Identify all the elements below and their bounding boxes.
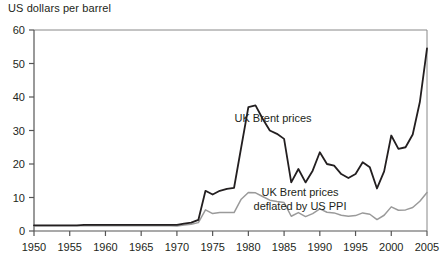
oil-price-chart: US dollars per barrel 0102030405060 1950… xyxy=(0,0,444,269)
svg-text:1980: 1980 xyxy=(236,241,260,253)
chart-plot-area: 0102030405060 19501955196019651970197519… xyxy=(0,0,444,269)
svg-text:60: 60 xyxy=(13,24,25,36)
svg-text:1975: 1975 xyxy=(200,241,224,253)
x-axis-ticks: 1950195519601965197019751980198519901995… xyxy=(22,231,439,253)
svg-text:1970: 1970 xyxy=(165,241,189,253)
svg-text:40: 40 xyxy=(13,91,25,103)
svg-text:0: 0 xyxy=(19,225,25,237)
svg-text:UK Brent prices: UK Brent prices xyxy=(261,186,339,198)
data-series-group xyxy=(34,48,427,226)
svg-text:2000: 2000 xyxy=(379,241,403,253)
svg-text:1950: 1950 xyxy=(22,241,46,253)
svg-text:1995: 1995 xyxy=(343,241,367,253)
series-annotations: UK Brent pricesUK Brent pricesdeflated b… xyxy=(234,112,346,212)
svg-text:2005: 2005 xyxy=(415,241,439,253)
svg-text:10: 10 xyxy=(13,192,25,204)
svg-text:20: 20 xyxy=(13,158,25,170)
svg-text:50: 50 xyxy=(13,58,25,70)
svg-text:30: 30 xyxy=(13,125,25,137)
plot-frame xyxy=(34,30,427,231)
y-axis-ticks: 0102030405060 xyxy=(13,24,34,237)
svg-text:1965: 1965 xyxy=(129,241,153,253)
svg-text:1960: 1960 xyxy=(93,241,117,253)
svg-text:deflated by US PPI: deflated by US PPI xyxy=(254,200,347,212)
svg-text:1985: 1985 xyxy=(272,241,296,253)
svg-text:1955: 1955 xyxy=(57,241,81,253)
svg-text:UK Brent prices: UK Brent prices xyxy=(234,112,312,124)
svg-text:1990: 1990 xyxy=(308,241,332,253)
